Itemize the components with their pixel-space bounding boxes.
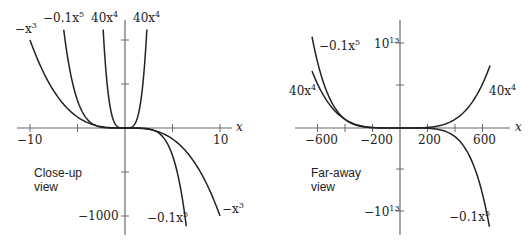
caption-far-away-line1: Far-away bbox=[311, 166, 361, 180]
tick-label-neg10: −10 bbox=[17, 133, 42, 147]
curve-neg-0.1-x-fifth bbox=[312, 37, 489, 227]
tick-label-200: 200 bbox=[418, 133, 441, 147]
label-neg01x5-top: −0.1x5 bbox=[43, 10, 84, 25]
tick-label-600: 600 bbox=[473, 133, 496, 147]
left-x-axis-label: x bbox=[236, 120, 243, 134]
tick-label-neg600: −600 bbox=[305, 133, 338, 147]
right-x-axis-label: x bbox=[515, 120, 522, 134]
tick-label-1e13: 1013 bbox=[374, 36, 399, 51]
label-neg01x5-bottom: −0.1x5 bbox=[147, 210, 188, 225]
close-up-chart: −10 10 −1000 x −x3 −0.1x5 40x4 40x4 −0.1… bbox=[15, 10, 244, 235]
tick-label-10: 10 bbox=[213, 133, 228, 147]
caption-close-up-line1: Close-up bbox=[34, 166, 82, 180]
caption-far-away-line2: view bbox=[311, 180, 335, 194]
label-40x4-left: 40x4 bbox=[91, 10, 118, 25]
caption-close-up-line2: view bbox=[34, 180, 58, 194]
curve-40-x-fourth bbox=[312, 65, 490, 128]
label-40x4-right: 40x4 bbox=[489, 83, 516, 98]
label-neg-x3-bottom: −x3 bbox=[222, 201, 244, 216]
tick-label-neg1000: −1000 bbox=[78, 209, 119, 223]
tick-label-neg1e13: −1013 bbox=[364, 204, 400, 219]
label-40x4-left: 40x4 bbox=[289, 83, 316, 98]
label-40x4-right: 40x4 bbox=[133, 10, 160, 25]
far-away-chart: −600 −200 200 600 1013 −1013 x −0.1x5 40… bbox=[289, 20, 522, 235]
figure: −10 10 −1000 x −x3 −0.1x5 40x4 40x4 −0.1… bbox=[0, 0, 529, 247]
label-neg01x5-top: −0.1x5 bbox=[319, 38, 360, 53]
label-neg-x3-top: −x3 bbox=[15, 21, 37, 36]
tick-label-neg200: −200 bbox=[360, 133, 393, 147]
label-neg01x5-bottom: −0.1x5 bbox=[449, 209, 490, 224]
